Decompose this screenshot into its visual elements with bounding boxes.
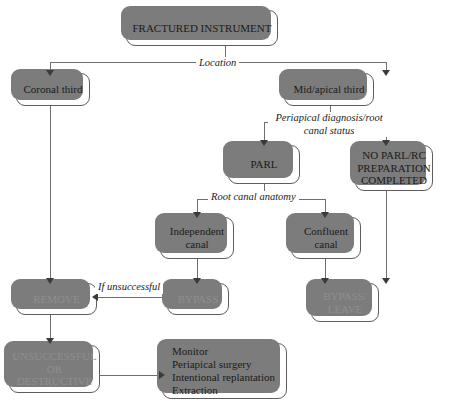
node-outcomes-list[interactable]: Monitor Periapical surgery Intentional r… xyxy=(162,343,287,399)
edge-label-periapical-diagnosis: Periapical diagnosis/root canal status xyxy=(268,112,390,137)
edge-label-location: Location xyxy=(196,57,239,70)
arrow-to-outcomes-icon xyxy=(159,371,165,379)
node-confluent-line2: canal xyxy=(304,238,348,251)
edge-label-if-unsuccessful: If unsuccessful xyxy=(95,281,163,294)
node-confluent-line1: Confluent xyxy=(304,225,348,238)
node-no-parl-line2: PREPARATION xyxy=(357,162,431,175)
node-coronal-third[interactable]: Coronal third xyxy=(16,73,90,106)
arrow-to-remove-left-icon xyxy=(92,293,98,301)
arrow-to-bypass-icon xyxy=(193,278,201,284)
arrow-to-midapical-icon xyxy=(382,70,390,76)
arrow-to-coronal-icon xyxy=(46,70,54,76)
node-mid-apical-third[interactable]: Mid/apical third xyxy=(284,73,374,106)
node-unsuccessful-line1: UNSUCCESSFUL xyxy=(12,350,96,363)
arrow-to-bypassleave-right-icon xyxy=(382,278,390,284)
node-independent-line1: Independent xyxy=(170,225,224,238)
arrow-to-remove-icon xyxy=(46,278,54,284)
node-bypass-leave-line2: LEAVE xyxy=(323,303,367,316)
flowchart-diagram: Location Periapical diagnosis/root canal… xyxy=(0,0,450,407)
node-outcome-periapical-surgery: Periapical surgery xyxy=(172,358,275,371)
connector-coronal-to-remove xyxy=(50,105,51,281)
edge-label-periapical-line1: Periapical diagnosis/root xyxy=(275,112,382,123)
node-no-parl-line1: NO PARL/RC xyxy=(357,149,431,162)
edge-label-periapical-line2: canal status xyxy=(304,125,354,136)
node-bypass-leave-line1: BYPASS/ xyxy=(323,290,367,303)
arrow-to-confluent-icon xyxy=(321,212,329,218)
node-independent-line2: canal xyxy=(170,238,224,251)
node-confluent-canal[interactable]: Confluent canal xyxy=(291,217,361,259)
node-outcome-intentional-replantation: Intentional replantation xyxy=(172,371,275,384)
arrow-to-bypassleave-left-icon xyxy=(321,278,329,284)
arrow-to-independent-icon xyxy=(193,212,201,218)
node-outcome-extraction: Extraction xyxy=(172,384,275,397)
node-unsuccessful-or-destructive[interactable]: UNSUCCESSFUL OR DESTRUCTIVE xyxy=(9,345,100,393)
node-no-parl-line3: COMPLETED xyxy=(357,174,431,187)
connector-noparl-to-bypassleave xyxy=(386,190,387,281)
node-bypass-leave[interactable]: BYPASS/ LEAVE xyxy=(311,283,379,322)
node-unsuccessful-line2: OR xyxy=(12,363,96,376)
node-parl[interactable]: PARL xyxy=(228,145,300,184)
node-unsuccessful-line3: DESTRUCTIVE xyxy=(12,375,96,388)
node-bypass[interactable]: BYPASS xyxy=(167,283,229,315)
node-no-parl-rc[interactable]: NO PARL/RC PREPARATION COMPLETED xyxy=(355,145,433,191)
node-remove[interactable]: REMOVE xyxy=(16,283,97,315)
arrow-to-parl-icon xyxy=(260,140,268,146)
node-independent-canal[interactable]: Independent canal xyxy=(160,217,234,259)
connector-unsuccessful-to-outcomes xyxy=(100,375,162,376)
arrow-to-noparl-icon xyxy=(382,140,390,146)
arrow-to-unsuccessful-icon xyxy=(46,338,54,344)
node-fractured-instrument[interactable]: FRACTURED INSTRUMENT xyxy=(126,10,278,46)
edge-label-root-canal-anatomy: Root canal anatomy xyxy=(208,191,299,204)
node-outcome-monitor: Monitor xyxy=(172,345,275,358)
